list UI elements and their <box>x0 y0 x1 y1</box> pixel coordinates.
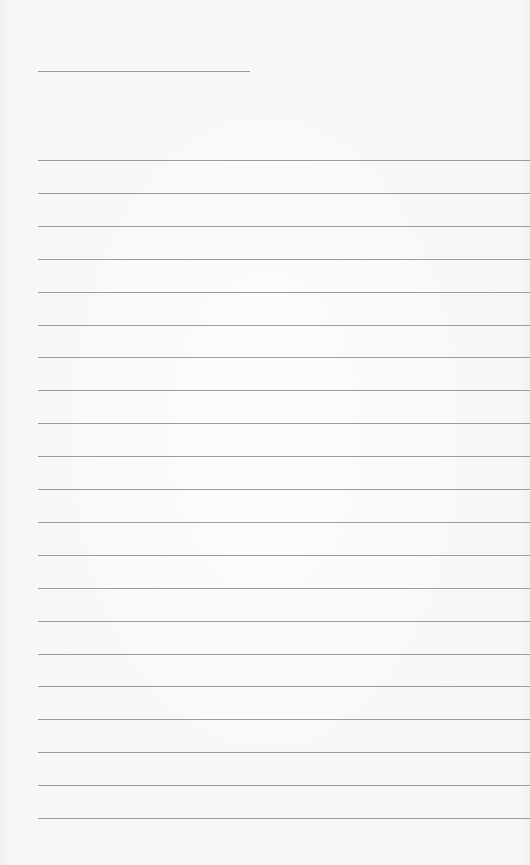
ruled-line <box>38 555 530 556</box>
ruled-line <box>38 522 530 523</box>
ruled-line <box>38 818 530 819</box>
title-underline <box>38 71 250 72</box>
ruled-line <box>38 456 530 457</box>
ruled-line <box>38 390 530 391</box>
ruled-line <box>38 686 530 687</box>
ruled-line <box>38 292 530 293</box>
ruled-line <box>38 654 530 655</box>
ruled-line <box>38 489 530 490</box>
ruled-line <box>38 226 530 227</box>
ruled-line <box>38 719 530 720</box>
ruled-line <box>38 193 530 194</box>
ruled-line <box>38 785 530 786</box>
ruled-line <box>38 325 530 326</box>
ruled-line <box>38 357 530 358</box>
ruled-line <box>38 160 530 161</box>
ruled-line <box>38 259 530 260</box>
ruled-line <box>38 588 530 589</box>
ruled-line <box>38 423 530 424</box>
lined-paper-page <box>0 0 530 865</box>
ruled-line <box>38 621 530 622</box>
ruled-line <box>38 752 530 753</box>
